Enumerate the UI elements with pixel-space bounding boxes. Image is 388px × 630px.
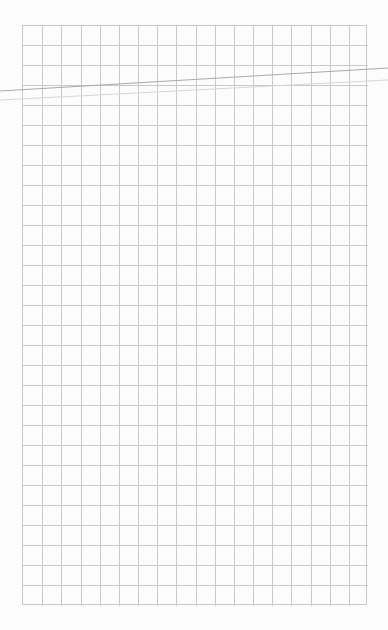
grid-area [22, 25, 367, 605]
grid-lines [23, 26, 368, 606]
graph-paper-page [0, 0, 388, 630]
